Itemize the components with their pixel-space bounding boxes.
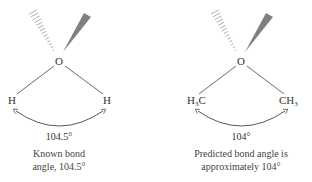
oxygen-atom: O <box>237 55 245 67</box>
bond-o-h-right <box>65 66 103 94</box>
hashed-wedge-lone-pair <box>29 10 54 51</box>
water-molecule: O H H 104.5° Known bond angle, 104.5° <box>8 10 111 172</box>
hash-stroke <box>218 22 224 25</box>
hash-stroke <box>222 28 227 31</box>
bond-angle-diagram: O H H 104.5° Known bond angle, 104.5° O … <box>0 0 312 182</box>
bond-angle-label: 104° <box>232 131 251 142</box>
methyl-right: CH3 <box>279 94 298 108</box>
caption-line-2: approximately 104° <box>201 161 280 172</box>
bond-angle-arc <box>16 111 103 126</box>
hash-stroke <box>229 41 232 43</box>
hash-stroke <box>36 22 42 25</box>
hydrogen-left: H <box>8 94 16 106</box>
bond-o-h-left <box>17 66 54 94</box>
hash-stroke <box>217 19 223 22</box>
bond-o-c-right <box>247 66 284 94</box>
hashed-wedge-lone-pair <box>211 10 236 51</box>
hash-stroke <box>224 31 228 33</box>
hash-stroke <box>213 13 220 17</box>
hash-stroke <box>227 37 230 39</box>
hash-stroke <box>211 10 219 14</box>
hash-stroke <box>235 50 236 51</box>
hash-stroke <box>38 25 43 28</box>
hash-stroke <box>42 31 46 33</box>
hash-stroke <box>233 47 235 48</box>
caption-line-1: Predicted bond angle is <box>194 148 288 159</box>
hash-stroke <box>33 16 40 20</box>
hash-stroke <box>35 19 41 22</box>
solid-wedge-lone-pair <box>63 13 91 52</box>
hash-stroke <box>231 44 233 45</box>
hash-stroke <box>49 44 51 45</box>
hash-stroke <box>53 50 54 51</box>
caption-line-1: Known bond <box>33 148 85 159</box>
bond-o-c-left <box>199 66 236 94</box>
hash-stroke <box>40 28 45 31</box>
hash-stroke <box>29 10 37 14</box>
hash-stroke <box>220 25 225 28</box>
hash-stroke <box>226 34 230 36</box>
caption-line-2: angle, 104.5° <box>32 161 85 172</box>
oxygen-atom: O <box>55 55 63 67</box>
hash-stroke <box>215 16 222 20</box>
hash-stroke <box>47 41 50 43</box>
bond-angle-label: 104.5° <box>46 131 73 142</box>
hash-stroke <box>45 37 48 39</box>
hash-stroke <box>44 34 48 36</box>
hash-stroke <box>31 13 38 17</box>
dimethyl-ether-molecule: O H3C CH3 104° Predicted bond angle is a… <box>187 10 298 172</box>
methyl-left: H3C <box>187 94 206 108</box>
hydrogen-right: H <box>103 94 111 106</box>
hash-stroke <box>51 47 53 48</box>
bond-angle-arc <box>198 111 285 126</box>
solid-wedge-lone-pair <box>245 13 273 52</box>
